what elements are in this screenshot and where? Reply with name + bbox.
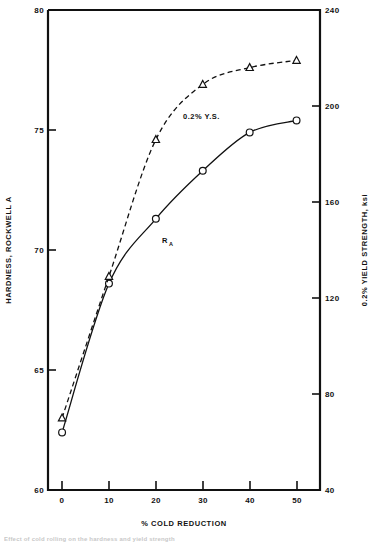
- figure-chart: 80 75 70 65 60 240 200 160 120 80 40: [0, 0, 379, 545]
- chart-plot-area: 80 75 70 65 60 240 200 160 120 80 40: [0, 0, 379, 545]
- left-axis-ticks: [48, 10, 56, 490]
- right-tick-label: 240: [325, 6, 340, 15]
- annotation-ys-label: 0.2% Y.S.: [183, 112, 220, 121]
- x-tick-label: 30: [198, 496, 208, 505]
- right-tick-label: 120: [325, 294, 340, 303]
- data-point-marker: [293, 56, 300, 63]
- data-series-layer: [58, 56, 300, 435]
- annotation-ra: R A: [162, 236, 173, 247]
- x-tick-label: 20: [151, 496, 161, 505]
- data-point-marker: [152, 215, 159, 222]
- left-tick-label: 75: [34, 126, 44, 135]
- right-tick-label: 80: [325, 390, 335, 399]
- right-axis-title: 0.2% YIELD STRENGTH, ksi: [360, 194, 369, 306]
- data-point-marker: [152, 136, 159, 143]
- data-point-marker: [293, 117, 300, 124]
- annotation-ra-label: R: [162, 236, 168, 245]
- left-tick-label: 70: [34, 246, 44, 255]
- x-tick-label: 50: [292, 496, 302, 505]
- left-tick-label: 65: [34, 366, 44, 375]
- left-tick-label: 80: [34, 6, 44, 15]
- x-axis-title: % COLD REDUCTION: [141, 519, 226, 528]
- left-axis-tick-labels: 80 75 70 65 60: [34, 6, 44, 495]
- x-tick-label: 10: [104, 496, 114, 505]
- data-point-marker: [58, 414, 65, 421]
- figure-caption: Effect of cold rolling on the hardness a…: [4, 536, 175, 542]
- right-axis-tick-labels: 240 200 160 120 80 40: [325, 6, 340, 495]
- data-point-marker: [199, 80, 206, 87]
- left-tick-label: 60: [34, 486, 44, 495]
- data-point-marker: [199, 167, 206, 174]
- x-axis-tick-labels: 0 10 20 30 40 50: [60, 496, 302, 505]
- x-tick-label: 40: [245, 496, 255, 505]
- right-tick-label: 200: [325, 102, 340, 111]
- right-axis-ticks: [312, 10, 320, 490]
- data-point-marker: [246, 129, 253, 136]
- data-point-marker: [59, 429, 66, 436]
- right-tick-label: 40: [325, 486, 335, 495]
- x-tick-label: 0: [60, 496, 65, 505]
- data-point-marker: [105, 272, 112, 279]
- data-point-marker: [106, 280, 113, 287]
- plot-frame: [48, 10, 320, 490]
- x-axis-ticks: [62, 481, 297, 490]
- annotation-ra-subscript: A: [169, 241, 173, 247]
- series-line-1: [62, 120, 296, 432]
- left-axis-title: HARDNESS, ROCKWELL A: [4, 196, 13, 304]
- annotation-ys: 0.2% Y.S.: [183, 112, 220, 121]
- right-tick-label: 160: [325, 198, 340, 207]
- series-line-2: [62, 60, 296, 418]
